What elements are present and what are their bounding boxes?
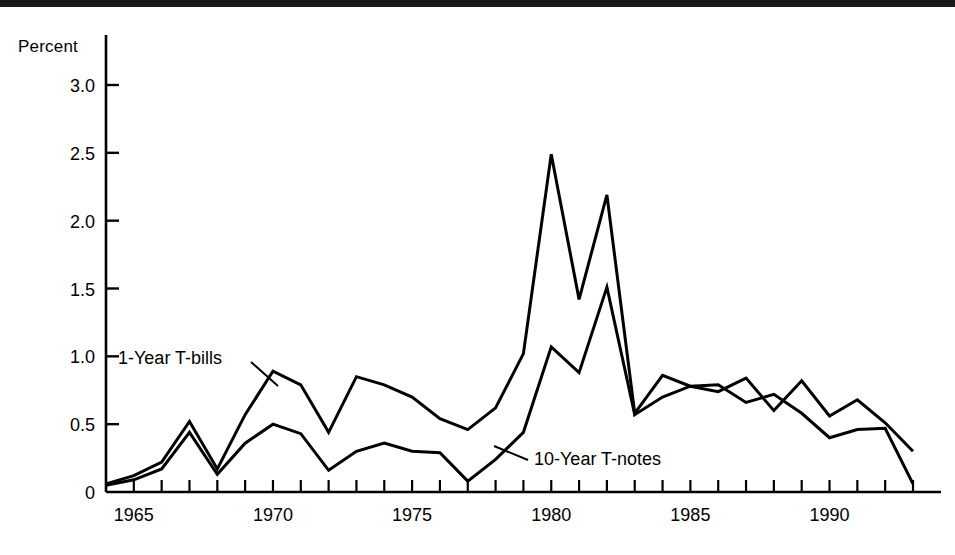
y-tick-label: 1.0 <box>70 347 95 367</box>
y-tick-label: 1.5 <box>70 280 95 300</box>
x-tick-label: 1975 <box>392 505 432 525</box>
x-tick-label: 1970 <box>253 505 293 525</box>
x-tick-group <box>134 480 913 492</box>
y-tick-label: 0 <box>85 483 95 503</box>
chart-page: 00.51.01.52.02.53.0 19651970197519801985… <box>0 0 955 555</box>
line-chart: 00.51.01.52.02.53.0 19651970197519801985… <box>0 0 955 555</box>
series-annotation-label: 10-Year T-notes <box>534 449 661 469</box>
y-tick-label: 2.0 <box>70 212 95 232</box>
data-series-group <box>106 154 913 485</box>
y-axis-title: Percent <box>18 37 78 56</box>
y-tick-group <box>106 85 119 424</box>
y-tick-label-group: 00.51.01.52.02.53.0 <box>70 76 95 503</box>
y-tick-label: 2.5 <box>70 144 95 164</box>
x-tick-label: 1985 <box>670 505 710 525</box>
series-annotation-label: 1-Year T-bills <box>118 348 222 368</box>
x-tick-label: 1980 <box>531 505 571 525</box>
y-tick-label: 3.0 <box>70 76 95 96</box>
series-line-1-year-t-bills <box>106 154 913 484</box>
x-tick-label: 1990 <box>809 505 849 525</box>
series-line-10-year-t-notes <box>106 287 913 485</box>
y-tick-label: 0.5 <box>70 415 95 435</box>
x-tick-label-group: 196519701975198019851990 <box>114 505 850 525</box>
x-tick-label: 1965 <box>114 505 154 525</box>
